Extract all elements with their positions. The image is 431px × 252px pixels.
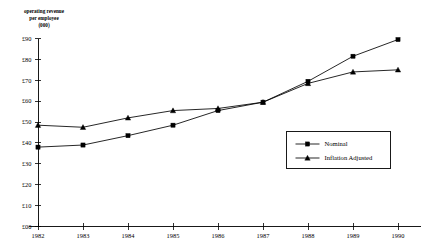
y-tick-label: £60 — [22, 97, 32, 104]
x-tick-label: 1986 — [212, 232, 225, 239]
series-line-path — [38, 70, 398, 127]
x-tick-label: 1983 — [77, 232, 90, 239]
x-tick-label: 1984 — [122, 232, 136, 239]
series-inflation-adjusted — [35, 67, 400, 129]
y-axis-title-line: per employee — [29, 15, 59, 21]
y-axis-title: operating revenueper employee(000) — [24, 8, 65, 29]
y-tick-label: £20 — [22, 181, 32, 188]
x-tick-label: 1987 — [257, 232, 271, 239]
data-point-marker — [81, 143, 85, 147]
y-tick-label: £50 — [22, 118, 32, 125]
chart-legend: NominalInflation Adjusted — [287, 132, 391, 169]
legend-border — [287, 132, 391, 169]
y-tick-label: £30 — [22, 160, 32, 167]
data-point-marker — [171, 123, 175, 127]
x-tick-label: 1988 — [302, 232, 315, 239]
y-tick-label: £70 — [22, 77, 32, 84]
y-tick-label: £40 — [22, 139, 32, 146]
series-nominal — [36, 37, 400, 149]
y-axis-title-line: operating revenue — [24, 8, 65, 14]
legend-item-nominal[interactable]: Nominal — [296, 140, 348, 147]
axes — [29, 39, 421, 227]
y-axis-title-line: (000) — [38, 22, 50, 29]
legend-label: Inflation Adjusted — [325, 154, 374, 161]
data-point-marker — [36, 145, 40, 149]
x-axis-ticks: 198219831984198519861987198819891990 — [32, 223, 405, 238]
chart-container: operating revenueper employee(000)£00£10… — [0, 0, 431, 252]
data-point-marker — [396, 37, 400, 41]
data-point-marker — [126, 134, 130, 138]
series-line-path — [38, 40, 398, 148]
legend-item-inflation-adjusted[interactable]: Inflation Adjusted — [296, 154, 374, 161]
y-tick-label: £80 — [22, 56, 32, 63]
x-tick-label: 1989 — [347, 232, 360, 239]
legend-marker — [305, 142, 309, 146]
y-tick-label: £90 — [22, 35, 32, 42]
line-chart: operating revenueper employee(000)£00£10… — [0, 0, 431, 252]
legend-label: Nominal — [325, 140, 348, 147]
y-tick-label: £10 — [22, 202, 32, 209]
x-tick-label: 1982 — [32, 232, 45, 239]
x-tick-label: 1990 — [392, 232, 405, 239]
x-tick-label: 1985 — [167, 232, 180, 239]
data-point-marker — [351, 54, 355, 58]
y-tick-label: £00 — [22, 223, 32, 230]
